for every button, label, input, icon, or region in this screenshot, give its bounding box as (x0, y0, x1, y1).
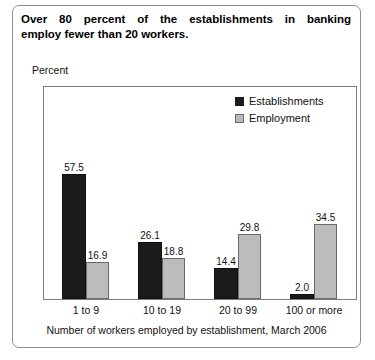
bar-establishments-10to19 (138, 242, 162, 299)
plot-area: Establishments Employment 57.5 16.9 26.1… (43, 86, 357, 300)
bar-establishments-20to99 (214, 268, 238, 299)
bar-establishments-1to9 (62, 174, 86, 299)
chart-title-line-2: employ fewer than 20 workers. (21, 27, 351, 42)
bar-value-establishments-10to19: 26.1 (138, 230, 162, 241)
x-tick-label-20to99: 20 to 99 (203, 304, 273, 316)
x-axis-title: Number of workers employed by establishm… (13, 324, 360, 336)
bar-value-employment-100ormore: 34.5 (314, 212, 337, 223)
chart-legend: Establishments Employment (235, 93, 324, 127)
bar-employment-100ormore (314, 224, 337, 299)
bar-value-establishments-100ormore: 2.0 (290, 282, 314, 293)
bar-establishments-100ormore (290, 294, 314, 299)
bar-employment-20to99 (238, 234, 261, 299)
legend-label-establishments: Establishments (249, 95, 324, 107)
legend-swatch-establishments-icon (235, 97, 244, 106)
x-axis-tick-labels: 1 to 9 10 to 19 20 to 99 100 or more (43, 304, 357, 320)
bar-value-employment-10to19: 18.8 (162, 246, 185, 257)
x-tick-label-100ormore: 100 or more (277, 304, 351, 316)
bar-employment-1to9 (86, 262, 109, 299)
chart-title-line-1: Over 80 percent of the establishments in… (21, 12, 351, 27)
legend-swatch-employment-icon (235, 114, 244, 123)
bar-employment-10to19 (162, 258, 185, 299)
x-tick-label-10to19: 10 to 19 (127, 304, 197, 316)
plot-inner-surface: Establishments Employment 57.5 16.9 26.1… (44, 87, 356, 299)
bar-value-establishments-1to9: 57.5 (62, 162, 86, 173)
legend-item-employment: Employment (235, 110, 324, 126)
chart-title: Over 80 percent of the establishments in… (21, 12, 351, 42)
legend-label-employment: Employment (249, 112, 310, 124)
legend-item-establishments: Establishments (235, 93, 324, 109)
bar-value-employment-1to9: 16.9 (86, 250, 109, 261)
x-tick-label-1to9: 1 to 9 (51, 304, 121, 316)
bar-value-employment-20to99: 29.8 (238, 222, 261, 233)
chart-figure: Over 80 percent of the establishments in… (12, 5, 361, 348)
bar-value-establishments-20to99: 14.4 (214, 256, 238, 267)
y-axis-label: Percent (32, 64, 68, 76)
